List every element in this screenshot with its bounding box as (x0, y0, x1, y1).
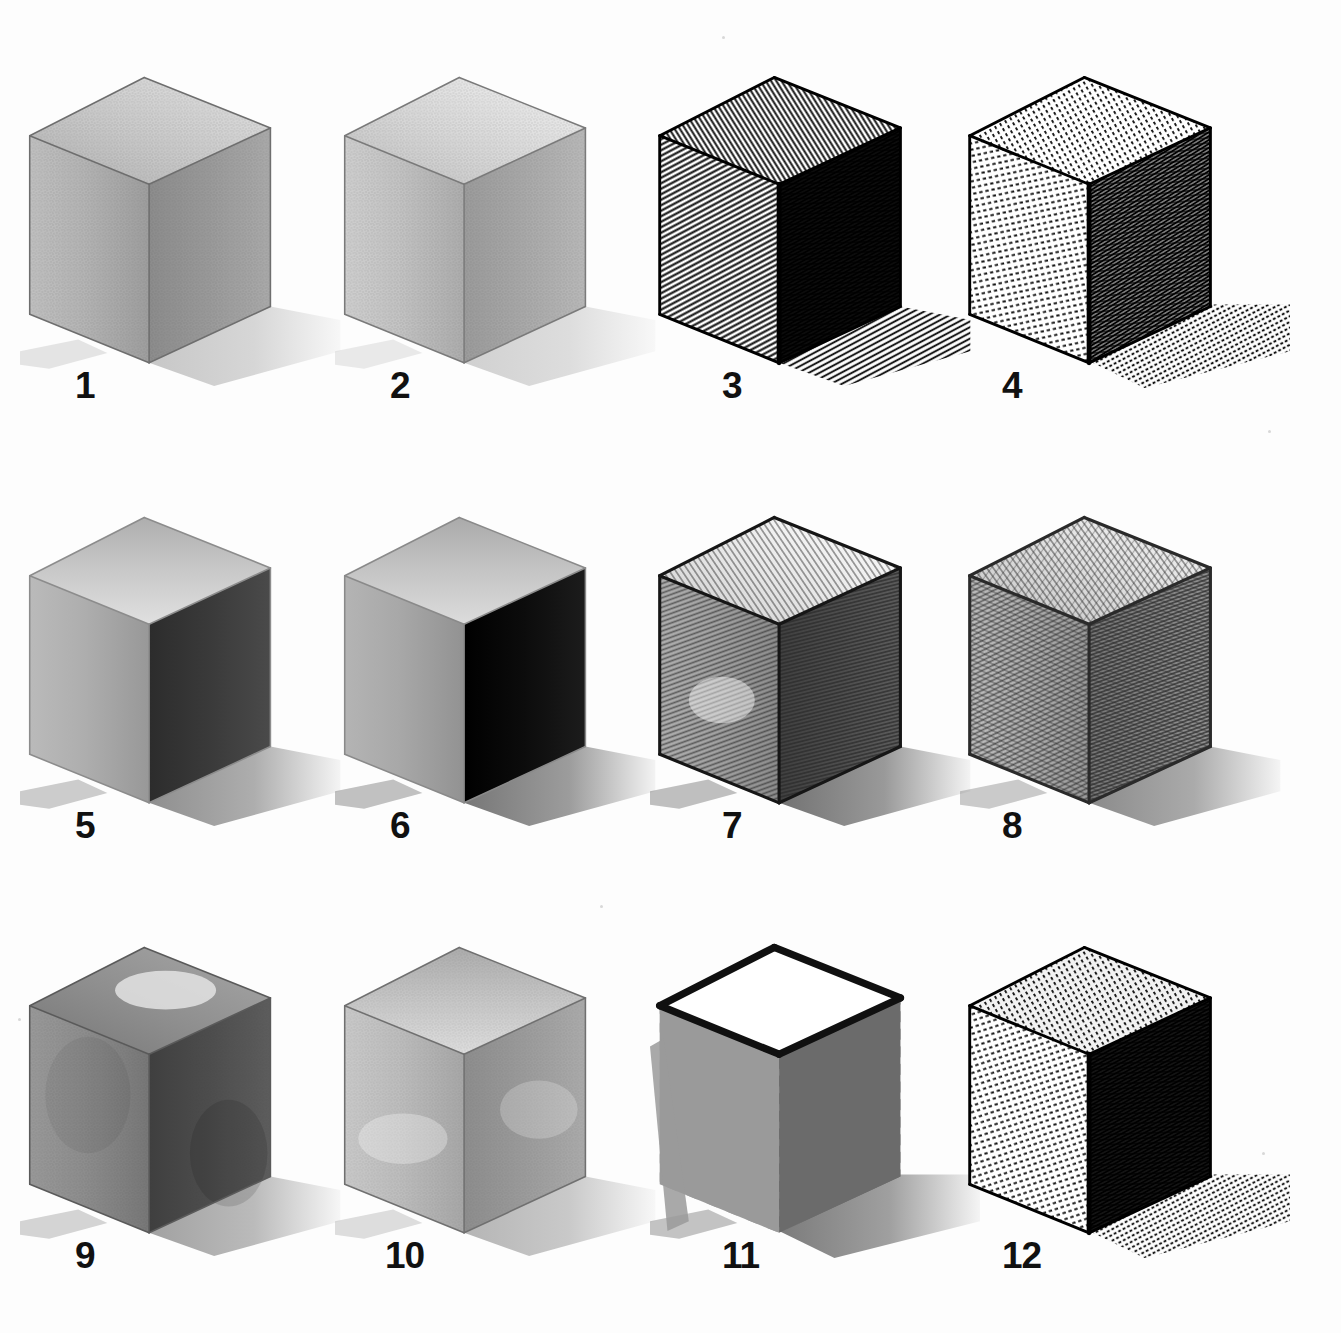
cube-cell: 3 (650, 55, 980, 455)
cube-drawing (335, 495, 665, 835)
cube-cell: 7 (650, 495, 980, 895)
cube-drawing (20, 495, 350, 835)
cube-cell: 11 (650, 925, 980, 1325)
cube-cell: 10 (335, 925, 665, 1325)
paper-speck (600, 905, 603, 908)
cube-label: 4 (1002, 367, 1022, 404)
cube-drawing (650, 925, 980, 1265)
cube-figure-2 (335, 55, 665, 385)
cube-drawing (960, 925, 1290, 1265)
cube-label: 7 (722, 807, 742, 844)
cube-cell: 4 (960, 55, 1290, 455)
cube-label: 11 (722, 1237, 759, 1274)
cube-cell: 5 (20, 495, 350, 895)
cube-drawing (650, 495, 980, 835)
highlight-smudge (500, 1080, 578, 1138)
cube-label: 5 (75, 807, 95, 844)
cube-figure-4 (960, 55, 1290, 385)
paper-speck (1262, 1152, 1265, 1155)
cube-drawing (335, 925, 665, 1265)
cube-figure-1 (20, 55, 350, 385)
cube-figure-11 (650, 925, 980, 1255)
cube-cell: 6 (335, 495, 665, 895)
cube-drawing (20, 925, 350, 1265)
cube-shading-plate: 1 2 3 4 5 6 7 8 (0, 0, 1341, 1333)
cube-label: 12 (1002, 1237, 1041, 1274)
cube-figure-10 (335, 925, 665, 1255)
highlight-smudge (358, 1113, 447, 1163)
wash-highlight (115, 971, 216, 1010)
paper-speck (722, 36, 725, 39)
cube-label: 3 (722, 367, 742, 404)
paper-speck (18, 1018, 21, 1021)
cube-label: 2 (390, 367, 410, 404)
cube-figure-3 (650, 55, 980, 385)
cube-figure-7 (650, 495, 980, 825)
cube-label: 6 (390, 807, 410, 844)
cube-figure-9 (20, 925, 350, 1255)
cube-figure-8 (960, 495, 1290, 825)
paper-speck (1268, 430, 1271, 433)
cube-drawing (960, 55, 1290, 395)
cube-drawing (335, 55, 665, 395)
cube-label: 10 (385, 1237, 424, 1274)
cube-cell: 1 (20, 55, 350, 455)
cube-figure-5 (20, 495, 350, 825)
cube-row-3: 9 10 11 12 (0, 925, 1341, 1325)
cube-cell: 12 (960, 925, 1290, 1325)
cube-drawing (650, 55, 980, 395)
cube-label: 9 (75, 1237, 95, 1274)
cube-figure-12 (960, 925, 1290, 1255)
cube-cell: 9 (20, 925, 350, 1325)
cube-figure-6 (335, 495, 665, 825)
cube-row-1: 1 2 3 4 (0, 55, 1341, 455)
cube-label: 8 (1002, 807, 1022, 844)
cube-cell: 2 (335, 55, 665, 455)
cube-drawing (20, 55, 350, 395)
cube-cell: 8 (960, 495, 1290, 895)
cube-drawing (960, 495, 1290, 835)
cube-label: 1 (75, 367, 95, 404)
cube-row-2: 5 6 7 8 (0, 495, 1341, 895)
highlight-erased (689, 677, 755, 724)
